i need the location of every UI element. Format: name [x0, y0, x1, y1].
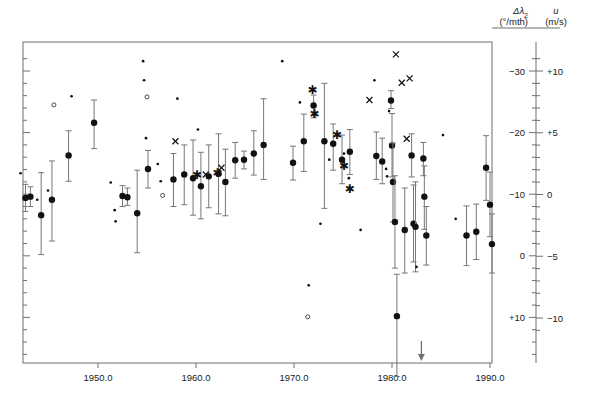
data-point-small-dot — [299, 101, 302, 104]
data-point-filled-circle — [487, 201, 493, 207]
data-point-filled-circle — [463, 232, 469, 238]
data-point-filled-circle — [483, 165, 489, 171]
data-point-small-dot — [114, 220, 117, 223]
delta-axis-label-0: 0 — [520, 250, 525, 261]
data-point-small-dot — [156, 163, 159, 166]
data-point-filled-circle — [241, 157, 247, 163]
u-axis-label-5: +5 — [547, 127, 558, 138]
data-point-filled-circle — [134, 210, 140, 216]
data-point-asterisk: ✱ — [192, 168, 202, 182]
delta-axis-label--30: −30 — [509, 66, 525, 77]
data-point-filled-circle — [402, 227, 408, 233]
series-open-circles — [52, 95, 310, 319]
data-point-filled-circle — [232, 157, 238, 163]
data-point-filled-circle — [65, 152, 71, 158]
data-point-filled-circle — [473, 229, 479, 235]
data-point-open-circle — [161, 193, 165, 197]
data-point-small-dot — [47, 189, 50, 192]
data-point-filled-circle — [321, 138, 327, 144]
data-point-asterisk: ✱ — [308, 83, 318, 97]
data-point-small-dot — [328, 158, 331, 161]
u-axis-title: u — [553, 5, 559, 16]
u-axis-label--5: −5 — [547, 251, 558, 262]
data-point-small-dot — [70, 95, 73, 98]
data-point-filled-circle — [373, 153, 379, 159]
data-point-filled-circle — [49, 197, 55, 203]
x-tick-label-1980: 1980.0 — [377, 372, 406, 383]
u-axis-label--10: −10 — [547, 313, 563, 324]
data-point-filled-circle — [91, 120, 97, 126]
plot-frame — [23, 42, 492, 363]
scatter-plot-canvas: 1950.01960.01970.01980.01990.0−30−20−100… — [0, 0, 597, 397]
data-point-asterisk: ✱ — [339, 159, 349, 173]
data-point-filled-circle — [420, 155, 426, 161]
x-tick-label-1990: 1990.0 — [475, 372, 504, 383]
data-point-small-dot — [388, 110, 391, 113]
data-point-small-dot — [19, 172, 22, 175]
data-point-small-dot — [281, 60, 284, 63]
data-point-small-dot — [176, 97, 179, 100]
data-point-small-dot — [159, 180, 162, 183]
data-point-small-dot — [359, 229, 362, 232]
delta-axis-units: (°/mth) — [499, 16, 528, 27]
down-arrow-head — [418, 354, 425, 361]
data-point-filled-circle — [251, 150, 257, 156]
data-point-small-dot — [319, 222, 322, 225]
data-point-asterisk: ✱ — [332, 128, 342, 142]
data-point-filled-circle — [388, 97, 394, 103]
u-axis-units: (m/s) — [545, 16, 567, 27]
data-point-filled-circle — [198, 183, 204, 189]
chart-figure: 1950.01960.01970.01980.01990.0−30−20−100… — [0, 0, 597, 397]
annotation-down-arrow — [418, 341, 425, 361]
data-point-filled-circle — [412, 224, 418, 230]
data-point-open-circle — [306, 315, 310, 319]
data-point-small-dot — [343, 152, 346, 155]
data-point-asterisk: ✱ — [310, 107, 320, 121]
data-point-filled-circle — [489, 241, 495, 247]
data-point-filled-circle — [27, 193, 33, 199]
data-point-small-dot — [109, 181, 112, 184]
data-point-small-dot — [113, 209, 116, 212]
data-point-filled-circle — [347, 148, 353, 154]
data-point-small-dot — [145, 137, 148, 140]
data-point-small-dot — [442, 134, 445, 137]
data-point-open-circle — [52, 103, 56, 107]
delta-axis-label--20: −20 — [509, 127, 525, 138]
data-point-filled-circle — [145, 166, 151, 172]
x-tick-label-1960: 1960.0 — [181, 372, 210, 383]
data-point-small-dot — [373, 79, 376, 82]
data-point-filled-circle — [379, 158, 385, 164]
data-point-small-dot — [143, 79, 146, 82]
series-asterisks: ✱✱✱✱✱✱✱ — [192, 83, 355, 196]
x-tick-label-1950: 1950.0 — [83, 372, 112, 383]
delta-axis-label--10: −10 — [509, 189, 525, 200]
data-point-filled-circle — [408, 152, 414, 158]
data-point-small-dot — [307, 284, 310, 287]
data-point-open-circle — [145, 95, 149, 99]
data-point-small-dot — [385, 168, 388, 171]
data-point-small-dot — [454, 217, 457, 220]
data-point-filled-circle — [222, 179, 228, 185]
data-point-asterisk: ✱ — [345, 182, 355, 196]
data-point-filled-circle — [38, 212, 44, 218]
u-axis-label-10: +10 — [547, 66, 563, 77]
data-point-small-dot — [348, 177, 351, 180]
data-point-filled-circle — [290, 160, 296, 166]
data-point-filled-circle — [170, 176, 176, 182]
data-point-small-dot — [142, 60, 145, 63]
data-point-filled-circle — [423, 232, 429, 238]
x-tick-label-1970: 1970.0 — [279, 372, 308, 383]
data-point-filled-circle — [301, 138, 307, 144]
data-point-small-dot — [197, 128, 200, 131]
data-point-small-dot — [386, 175, 389, 178]
data-point-small-dot — [36, 198, 39, 201]
data-point-filled-circle — [124, 194, 130, 200]
delta-axis-label-10: +10 — [509, 312, 525, 323]
series-primary-with-errorbars — [22, 83, 495, 376]
data-point-filled-circle — [421, 193, 427, 199]
u-axis-label-0: 0 — [547, 189, 552, 200]
data-point-filled-circle — [392, 219, 398, 225]
data-point-small-dot — [415, 266, 418, 269]
data-point-filled-circle — [181, 171, 187, 177]
data-point-filled-circle — [260, 142, 266, 148]
